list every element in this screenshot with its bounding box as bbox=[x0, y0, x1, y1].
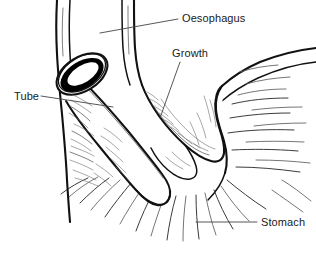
label-tube: Tube bbox=[14, 90, 39, 102]
label-stomach: Stomach bbox=[261, 216, 305, 228]
diagram-canvas: Oesophagus Growth Tube Stomach bbox=[0, 0, 316, 274]
oesophagus-wall-right bbox=[122, 0, 142, 85]
label-growth: Growth bbox=[172, 47, 208, 59]
label-oesophagus: Oesophagus bbox=[182, 12, 246, 24]
leader-oesophagus bbox=[100, 19, 178, 33]
anatomical-diagram: Oesophagus Growth Tube Stomach bbox=[0, 0, 316, 274]
